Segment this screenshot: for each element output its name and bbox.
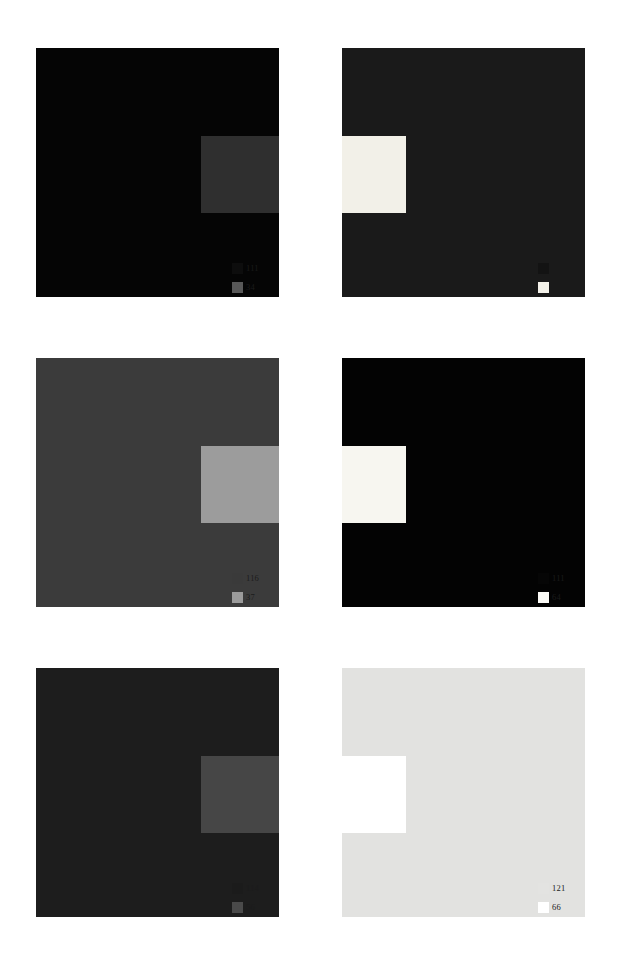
panel-cell-6: 121 66: [306, 658, 600, 967]
legend-entry: 64: [538, 589, 598, 605]
legend-swatch-icon: [232, 592, 243, 603]
panel-grid: 111 34 114 41: [0, 0, 629, 967]
legend-swatch-icon: [538, 263, 549, 274]
panel-inset-5: [201, 756, 279, 833]
legend-entry: 56: [232, 899, 292, 915]
legend-value: 116: [246, 573, 259, 584]
legend-swatch-icon: [232, 883, 243, 894]
legend-swatch-icon: [232, 902, 243, 913]
legend-swatch-icon: [232, 573, 243, 584]
legend-value: 41: [552, 282, 561, 293]
legend-entry: 121: [538, 880, 598, 896]
legend-entry: 37: [232, 589, 292, 605]
legend-value: 121: [552, 883, 565, 894]
legend-entry: 116: [232, 570, 292, 586]
panel-inset-2: [342, 136, 406, 213]
legend-swatch-icon: [538, 573, 549, 584]
legend-entry: 111: [538, 570, 598, 586]
panel-legend-1: 111 34: [232, 260, 292, 298]
panel-inset-4: [342, 446, 406, 523]
panel-legend-2: 114 41: [538, 260, 598, 298]
legend-value: 114: [552, 263, 565, 274]
panel-legend-5: 114 56: [232, 880, 292, 918]
legend-entry: 111: [232, 260, 292, 276]
panel-cell-4: 111 64: [306, 348, 600, 658]
panel-cell-1: 111 34: [0, 38, 294, 348]
legend-entry: 114: [232, 880, 292, 896]
panel-inset-1: [201, 136, 279, 213]
legend-value: 37: [246, 592, 255, 603]
legend-entry: 114: [538, 260, 598, 276]
legend-swatch-icon: [538, 592, 549, 603]
panel-legend-3: 116 37: [232, 570, 292, 608]
panel-legend-6: 121 66: [538, 880, 598, 918]
panel-cell-5: 114 56: [0, 658, 294, 967]
legend-value: 64: [552, 592, 561, 603]
panel-cell-3: 116 37: [0, 348, 294, 658]
legend-entry: 66: [538, 899, 598, 915]
panel-legend-4: 111 64: [538, 570, 598, 608]
legend-value: 66: [552, 902, 561, 913]
panel-inset-3: [201, 446, 279, 523]
legend-value: 111: [552, 573, 565, 584]
panel-cell-2: 114 41: [306, 38, 600, 348]
legend-swatch-icon: [538, 902, 549, 913]
legend-entry: 34: [232, 279, 292, 295]
legend-swatch-icon: [538, 883, 549, 894]
legend-value: 56: [246, 902, 255, 913]
legend-entry: 41: [538, 279, 598, 295]
legend-value: 111: [246, 263, 259, 274]
legend-value: 34: [246, 282, 255, 293]
panel-inset-6: [342, 756, 406, 833]
legend-value: 114: [246, 883, 259, 894]
legend-swatch-icon: [232, 263, 243, 274]
legend-swatch-icon: [232, 282, 243, 293]
legend-swatch-icon: [538, 282, 549, 293]
